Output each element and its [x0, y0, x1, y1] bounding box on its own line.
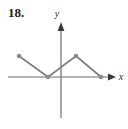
graph-point: [46, 75, 51, 80]
graph-point: [74, 54, 79, 59]
graph-point: [17, 54, 22, 59]
coordinate-plot: y x: [0, 0, 128, 129]
x-axis-label: x: [118, 71, 124, 82]
graph-point: [99, 75, 104, 80]
y-axis-label: y: [54, 8, 60, 19]
graph-curve: [19, 56, 101, 77]
x-axis-arrowhead: [108, 73, 116, 80]
graph-point-markers: [17, 54, 104, 80]
figure-container: 18. y x: [0, 0, 128, 129]
y-axis-arrowhead: [58, 22, 65, 31]
